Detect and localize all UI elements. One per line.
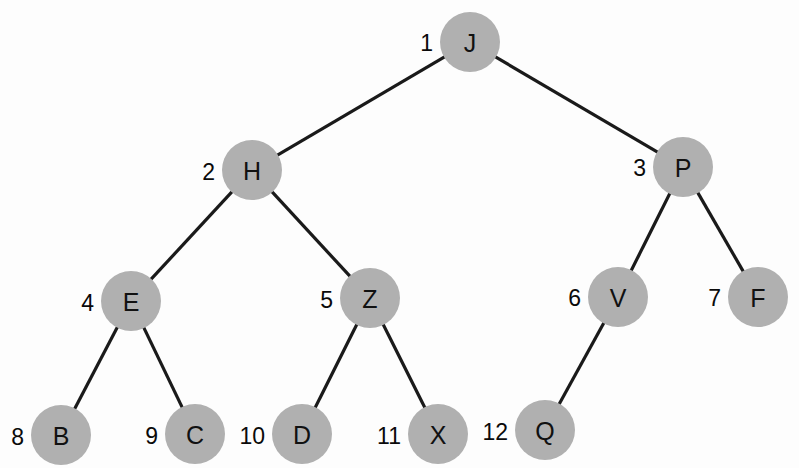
edges-layer [74, 57, 743, 410]
tree-node-e[interactable]: E4 [81, 271, 161, 331]
node-index-11: 11 [377, 423, 401, 449]
tree-edge-p-f [697, 192, 743, 272]
tree-edge-p-v [631, 193, 670, 271]
node-index-4: 4 [81, 290, 94, 316]
tree-node-f[interactable]: F7 [708, 267, 788, 327]
binary-tree-diagram: J1H2P3E4Z5V6F7B8C9D10X11Q12 [0, 0, 799, 468]
tree-edge-h-e [151, 191, 233, 279]
node-label-z: Z [362, 285, 377, 313]
node-label-v: V [610, 284, 627, 312]
tree-edge-e-c [144, 327, 183, 408]
node-index-5: 5 [320, 287, 333, 313]
node-index-6: 6 [568, 285, 581, 311]
node-label-p: P [675, 154, 692, 182]
node-index-2: 2 [202, 159, 215, 185]
node-index-12: 12 [482, 419, 508, 445]
tree-edge-v-q [559, 322, 604, 404]
node-index-7: 7 [708, 285, 721, 311]
node-index-10: 10 [239, 423, 265, 449]
node-label-d: D [293, 421, 311, 449]
nodes-layer: J1H2P3E4Z5V6F7B8C9D10X11Q12 [11, 12, 788, 465]
tree-edge-h-z [272, 191, 351, 276]
node-label-j: J [464, 29, 477, 57]
node-label-e: E [123, 288, 140, 316]
tree-node-z[interactable]: Z5 [320, 268, 400, 328]
tree-edge-z-d [315, 324, 357, 408]
node-label-b: B [53, 422, 70, 450]
node-label-f: F [750, 284, 765, 312]
tree-canvas: J1H2P3E4Z5V6F7B8C9D10X11Q12 [0, 0, 799, 468]
tree-node-d[interactable]: D10 [239, 404, 332, 464]
node-index-1: 1 [420, 30, 433, 56]
tree-node-x[interactable]: X11 [377, 404, 468, 464]
node-index-3: 3 [633, 155, 646, 181]
tree-node-h[interactable]: H2 [202, 140, 282, 200]
tree-node-v[interactable]: V6 [568, 267, 648, 327]
tree-node-q[interactable]: Q12 [482, 400, 575, 460]
node-label-x: X [430, 421, 447, 449]
node-label-c: C [186, 421, 204, 449]
tree-node-c[interactable]: C9 [145, 404, 225, 464]
node-label-h: H [243, 157, 261, 185]
tree-node-b[interactable]: B8 [11, 405, 91, 465]
tree-edge-j-h [277, 57, 445, 156]
tree-edge-j-p [495, 57, 658, 153]
tree-edge-z-x [383, 324, 425, 408]
node-index-9: 9 [145, 423, 158, 449]
tree-edge-e-b [74, 327, 117, 410]
node-label-q: Q [535, 417, 554, 445]
node-index-8: 8 [11, 424, 24, 450]
